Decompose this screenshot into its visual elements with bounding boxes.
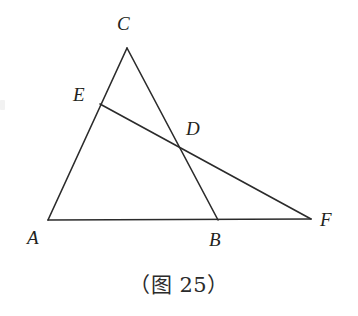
vertex-label-e: E	[73, 85, 85, 104]
segment-CB	[127, 48, 218, 220]
segments-group	[48, 48, 311, 220]
segment-AF	[48, 219, 311, 220]
geometry-figure: A B C D E F （图 25）	[0, 0, 358, 316]
vertex-label-f: F	[320, 210, 332, 229]
vertex-label-a: A	[27, 228, 39, 247]
segment-EF	[100, 104, 311, 219]
vertex-label-c: C	[117, 14, 130, 33]
segment-AC	[48, 48, 127, 220]
vertex-label-b: B	[209, 230, 221, 249]
figure-caption: （图 25）	[0, 268, 358, 298]
vertex-label-d: D	[186, 119, 200, 138]
